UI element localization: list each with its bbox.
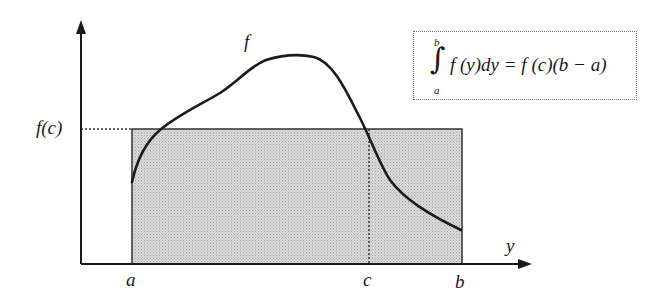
- integral-sign-icon: ∫: [430, 44, 446, 74]
- point-b-label: b: [455, 272, 465, 291]
- function-label: f: [244, 32, 249, 51]
- integral-lower-limit: a: [434, 84, 440, 96]
- mean-value-rectangle: [132, 129, 462, 264]
- vertical-axis-arrow-icon: [76, 20, 86, 34]
- axis-variable-label: y: [506, 236, 514, 255]
- formula-box: b ∫ a f (y)dy = f (c)(b − a): [413, 31, 637, 100]
- point-a-label: a: [126, 270, 136, 289]
- horizontal-axis-arrow-icon: [518, 259, 532, 269]
- point-c-label: c: [363, 270, 371, 289]
- mean-value-label: f(c): [36, 118, 62, 137]
- mean-value-diagram: f f(c) y a c b b ∫ a f (y)dy = f (c)(b −…: [0, 0, 667, 303]
- formula-expression: f (y)dy = f (c)(b − a): [450, 54, 606, 76]
